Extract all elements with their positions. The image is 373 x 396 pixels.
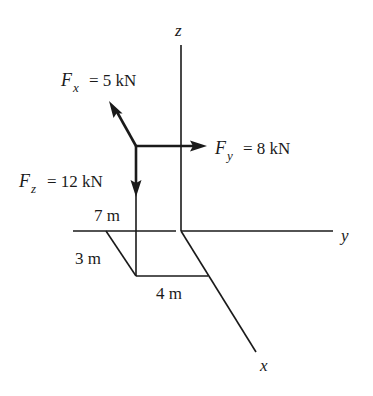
fy-symbol: F xyxy=(214,138,227,158)
x-offset-line xyxy=(106,231,136,276)
fy-subscript: y xyxy=(225,148,233,163)
fx-subscript: x xyxy=(72,80,79,95)
x-axis-label: x xyxy=(259,356,268,375)
dimension-7m: 7 m xyxy=(94,206,120,225)
fy-value: = 8 kN xyxy=(243,139,290,158)
x-axis xyxy=(181,231,256,352)
fx-arrow-shaft xyxy=(117,112,136,146)
dimension-4m: 4 m xyxy=(156,284,182,303)
fz-value: = 12 kN xyxy=(47,172,103,191)
fy-label: F y = 8 kN xyxy=(214,138,290,163)
fx-value: = 5 kN xyxy=(89,71,136,90)
fz-symbol: F xyxy=(18,171,31,191)
dimension-3m: 3 m xyxy=(75,249,101,268)
fx-arrowhead-icon xyxy=(109,101,123,118)
fz-label: F z = 12 kN xyxy=(18,171,103,196)
force-diagram: z y x F x = 5 kN F y = 8 kN F z = 12 kN … xyxy=(0,0,373,396)
y-axis-label: y xyxy=(339,226,349,245)
fx-label: F x = 5 kN xyxy=(60,70,136,95)
z-axis-label: z xyxy=(174,21,182,40)
fx-symbol: F xyxy=(60,70,73,90)
fz-subscript: z xyxy=(30,181,36,196)
